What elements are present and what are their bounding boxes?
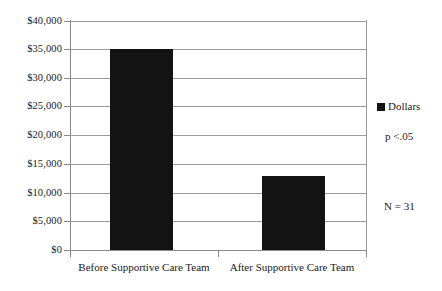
bar-before-supportive-care-team[interactable] [110,49,173,250]
y-axis-label-35000: $35,000 [4,44,62,55]
y-tick-mark-40000 [64,21,70,22]
x-axis-label-before-supportive-care-team: Before Supportive Care Team [70,261,218,274]
plot-right-border [366,20,367,251]
x-tick-mark-middle [218,251,219,257]
y-axis-label-0: $0 [4,245,62,256]
annotation-sample-size: N = 31 [384,201,415,212]
y-tick-mark-15000 [64,164,70,165]
y-axis-label-30000: $30,000 [4,73,62,84]
y-tick-mark-30000 [64,78,70,79]
y-axis-label-15000: $15,000 [4,159,62,170]
y-axis-label-20000: $20,000 [4,130,62,141]
legend-label-dollars: Dollars [388,101,420,112]
legend-swatch-icon [377,103,385,111]
y-axis-line [70,20,71,251]
gridline-40000 [70,21,367,22]
bar-after-supportive-care-team[interactable] [262,176,325,250]
x-axis-label-after-supportive-care-team: After Supportive Care Team [218,261,366,274]
y-tick-mark-35000 [64,49,70,50]
y-tick-mark-25000 [64,106,70,107]
y-axis-label-5000: $5,000 [4,216,62,227]
y-axis-label-10000: $10,000 [4,188,62,199]
legend-item-dollars[interactable]: Dollars [377,101,420,112]
x-tick-mark-end [366,251,367,257]
x-tick-mark-start [70,251,71,257]
y-axis-label-25000: $25,000 [4,101,62,112]
y-tick-mark-5000 [64,221,70,222]
y-tick-mark-20000 [64,135,70,136]
y-axis-label-40000: $40,000 [4,16,62,27]
bar-chart-figure: $40,000 $35,000 $30,000 $25,000 $20,000 … [0,0,442,291]
annotation-significance: p <.05 [385,131,413,142]
y-tick-mark-10000 [64,193,70,194]
